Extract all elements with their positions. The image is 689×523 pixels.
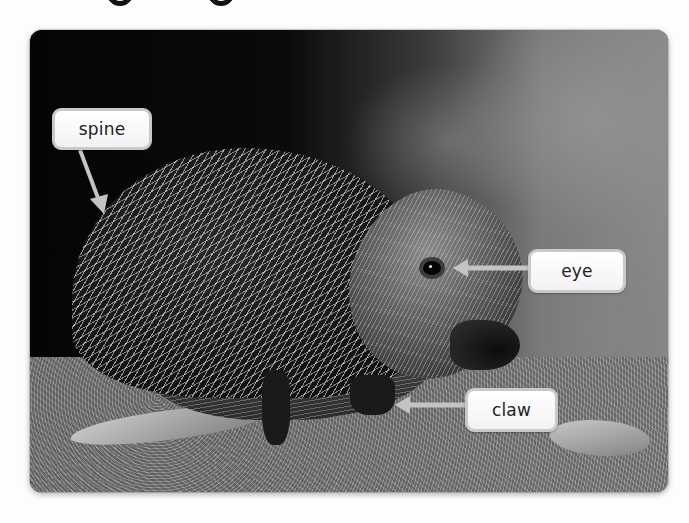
title-fragment (0, 0, 689, 8)
label-claw: claw (465, 388, 558, 432)
label-eye: eye (528, 249, 626, 293)
hedgehog-claw (350, 375, 395, 415)
title-glyph-fragment (100, 0, 140, 12)
hedgehog-eye (423, 261, 441, 275)
hedgehog-leg (262, 370, 290, 445)
label-eye-text: eye (561, 261, 593, 281)
title-glyph-fragment (201, 0, 241, 12)
label-spine: spine (52, 108, 152, 150)
hedgehog-snout (450, 320, 520, 370)
label-spine-text: spine (79, 119, 126, 139)
label-claw-text: claw (492, 400, 531, 420)
